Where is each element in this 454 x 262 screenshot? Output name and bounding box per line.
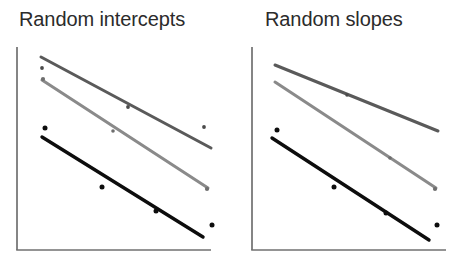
data-point — [111, 129, 115, 133]
panel-random-slopes — [251, 47, 446, 250]
data-point — [43, 126, 48, 131]
data-point — [384, 211, 389, 216]
plots-svg — [0, 0, 454, 262]
data-point — [154, 209, 159, 214]
data-point — [41, 77, 45, 81]
panel-title-random-intercepts: Random intercepts — [19, 8, 185, 31]
data-point — [210, 223, 215, 228]
series-group-3-black-left — [42, 126, 215, 238]
data-point — [40, 66, 44, 70]
data-point — [435, 223, 440, 228]
panel-title-random-slopes: Random slopes — [265, 8, 403, 31]
data-point — [100, 185, 105, 190]
figure-canvas: Random intercepts Random slopes — [0, 0, 454, 262]
fit-line-black-left — [42, 137, 203, 237]
data-point — [205, 187, 209, 191]
panel-random-intercepts — [16, 47, 214, 250]
fit-line-black-right — [272, 138, 429, 240]
data-point — [126, 105, 130, 109]
data-point — [388, 156, 392, 160]
data-point — [332, 185, 337, 190]
data-point — [433, 187, 437, 191]
data-point — [202, 125, 206, 129]
data-point — [345, 93, 348, 96]
series-group-3-black-right — [272, 128, 440, 241]
data-point — [275, 128, 280, 133]
